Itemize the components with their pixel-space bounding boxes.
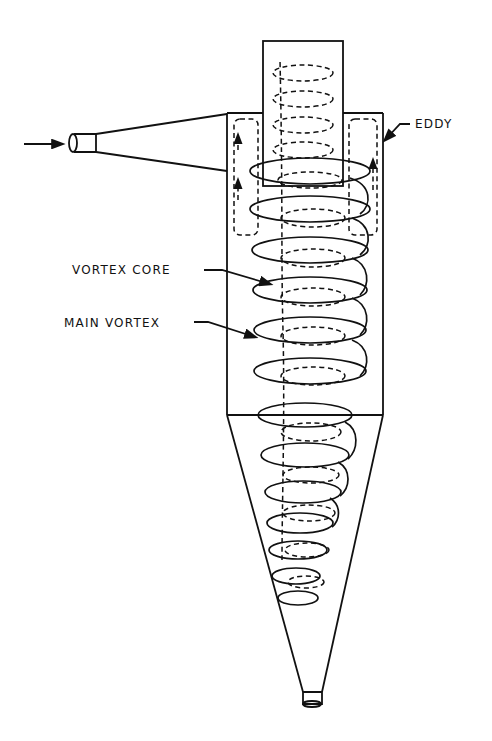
dust-outlet (303, 692, 322, 707)
main-vortex-leader (194, 322, 255, 337)
inlet-duct (69, 114, 227, 171)
main-vortex-label: MAIN VORTEX (64, 316, 160, 330)
main-vortex-flow (250, 158, 370, 605)
vortex-core-flow (273, 60, 345, 588)
cone (227, 415, 383, 692)
vortex-core-label: VORTEX CORE (72, 263, 171, 277)
cyclone-diagram: EDDY VORTEX CORE MAIN VORTEX (0, 0, 492, 741)
vortex-core-leader (204, 270, 270, 284)
eddy-label: EDDY (415, 117, 453, 131)
eddy-leader (385, 124, 410, 140)
vortex-finder (263, 41, 343, 186)
